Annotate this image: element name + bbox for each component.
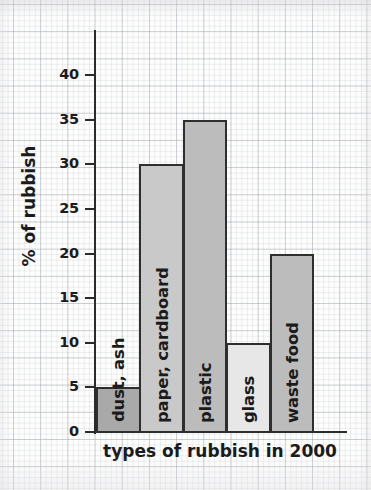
y-axis-tick-label: 0 [39,424,79,439]
bar-chart: 0510152025303540 paper, cardboardplastic… [0,0,371,490]
y-axis-tick-label: 20 [39,246,79,261]
y-axis-tick [85,253,95,255]
y-axis-tick [85,208,95,210]
bar-label: paper, cardboard [152,267,171,423]
y-axis-title: % of rubbish [19,131,39,281]
graph-paper-sheet: 0510152025303540 paper, cardboardplastic… [0,0,371,490]
y-axis-tick-label: 30 [39,156,79,171]
y-axis-tick [85,342,95,344]
bar-label: glass [239,376,258,423]
y-axis-tick-label: 10 [39,335,79,350]
y-axis-tick [85,386,95,388]
bar[interactable] [96,387,141,433]
y-axis-tick [85,163,95,165]
y-axis-tick-label: 40 [39,67,79,82]
bar-label: plastic [196,363,215,423]
y-axis-tick-label: 35 [39,112,79,127]
x-axis-title: types of rubbish in 2000 [78,441,362,461]
bar[interactable]: plastic [183,120,228,433]
bar[interactable]: waste food [270,254,315,434]
y-axis-tick [85,74,95,76]
y-axis-tick [85,431,95,433]
y-axis-tick-label: 15 [39,290,79,305]
bar-label: waste food [282,322,301,423]
bar[interactable]: paper, cardboard [139,164,184,433]
y-axis-tick-label: 5 [39,379,79,394]
y-axis-line [94,30,96,434]
y-axis-tick-label: 25 [39,201,79,216]
y-axis-tick [85,297,95,299]
bar[interactable]: glass [226,343,271,433]
y-axis-tick [85,119,95,121]
